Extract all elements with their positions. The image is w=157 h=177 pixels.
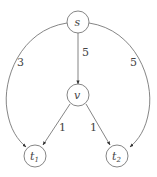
node-t1: t1: [24, 145, 46, 167]
weight-v-t1: 1: [59, 121, 66, 134]
weight-v-t2: 1: [90, 121, 97, 134]
weight-s-v: 5: [82, 46, 89, 59]
graph-canvas: 3 5 5 1 1 s v t1 t2: [0, 0, 157, 177]
svg-text:v: v: [74, 89, 81, 102]
svg-text:s: s: [75, 16, 81, 29]
weight-s-t2: 5: [130, 56, 137, 69]
node-t2: t2: [106, 145, 128, 167]
edge-s-t2: [89, 23, 150, 147]
edge-s-t1: [6, 23, 67, 147]
node-s: s: [67, 11, 89, 33]
weight-s-t1: 3: [17, 56, 24, 69]
node-v: v: [67, 84, 89, 106]
